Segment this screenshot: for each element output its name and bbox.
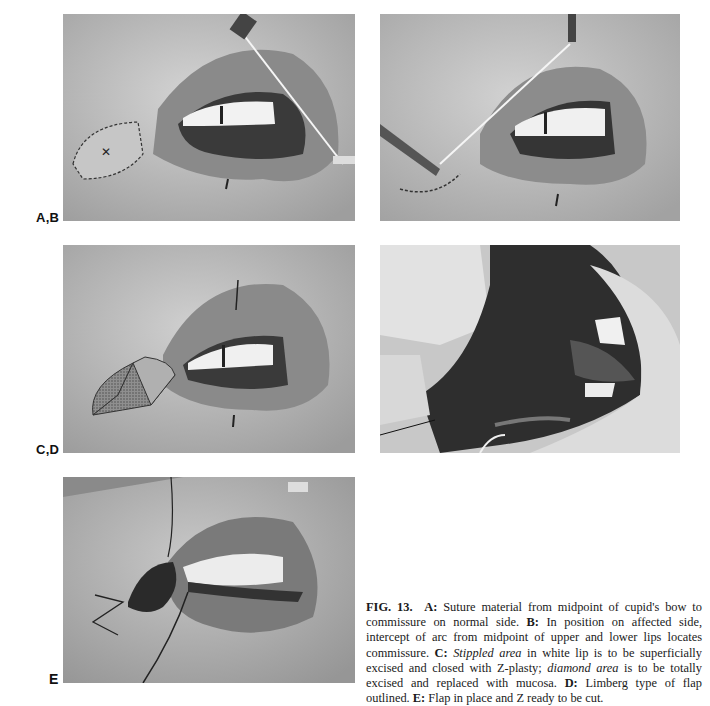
figure-caption: FIG. 13. A: Suture material from midpoin… (366, 600, 702, 706)
photo-panel-e (63, 477, 355, 683)
lip-photo-c-image (63, 245, 355, 453)
svg-text:✕: ✕ (101, 145, 111, 159)
photo-panel-d (380, 245, 680, 453)
lip-photo-b-image (380, 14, 680, 221)
panel-label-ab: A,B (36, 210, 59, 225)
caption-label-d: D: (565, 676, 578, 690)
caption-label-c: C: (435, 646, 448, 660)
caption-text-e: Flap in place and Z ready to be cut. (425, 691, 603, 705)
photo-panel-a: ✕ (63, 14, 355, 221)
photo-panel-c (63, 245, 355, 453)
lip-photo-d-image (380, 245, 680, 453)
caption-term-stippled-area: Stippled area (453, 646, 521, 660)
panel-label-e: E (49, 671, 59, 687)
lip-photo-a-image: ✕ (63, 14, 355, 221)
figure-number: FIG. 13. (366, 600, 413, 614)
photo-panel-b (380, 14, 680, 221)
caption-label-e: E: (413, 691, 425, 705)
caption-label-b: B: (527, 615, 539, 629)
lip-photo-e-image (63, 477, 355, 683)
panel-label-cd: C,D (36, 442, 59, 457)
caption-term-diamond-area: diamond area (547, 661, 618, 675)
caption-label-a: A: (424, 600, 437, 614)
